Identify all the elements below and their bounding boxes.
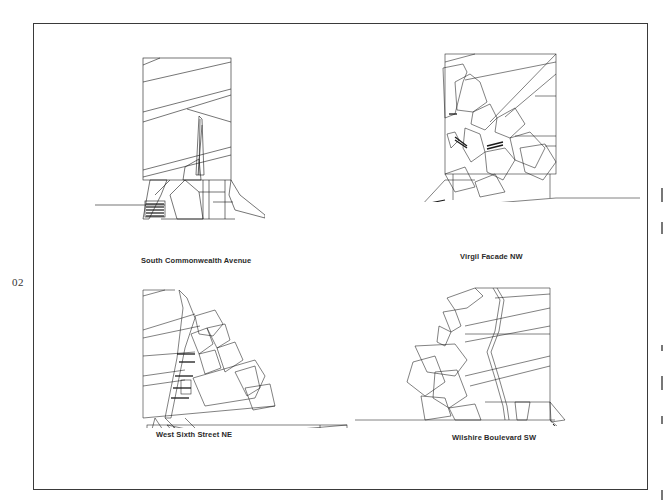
elevation-south-commonwealth (95, 55, 265, 235)
elevation-wilshire (355, 286, 575, 426)
caption-virgil-facade: Virgil Facade NW (460, 252, 523, 261)
elevation-west-sixth (95, 288, 355, 428)
cropped-adjacent-text (660, 0, 666, 504)
caption-west-sixth: West Sixth Street NE (156, 430, 232, 439)
caption-south-commonwealth: South Commonwealth Avenue (141, 256, 251, 265)
elevation-virgil-facade (375, 52, 645, 202)
page-number: 02 (12, 276, 24, 288)
caption-wilshire: Wilshire Boulevard SW (452, 433, 536, 442)
